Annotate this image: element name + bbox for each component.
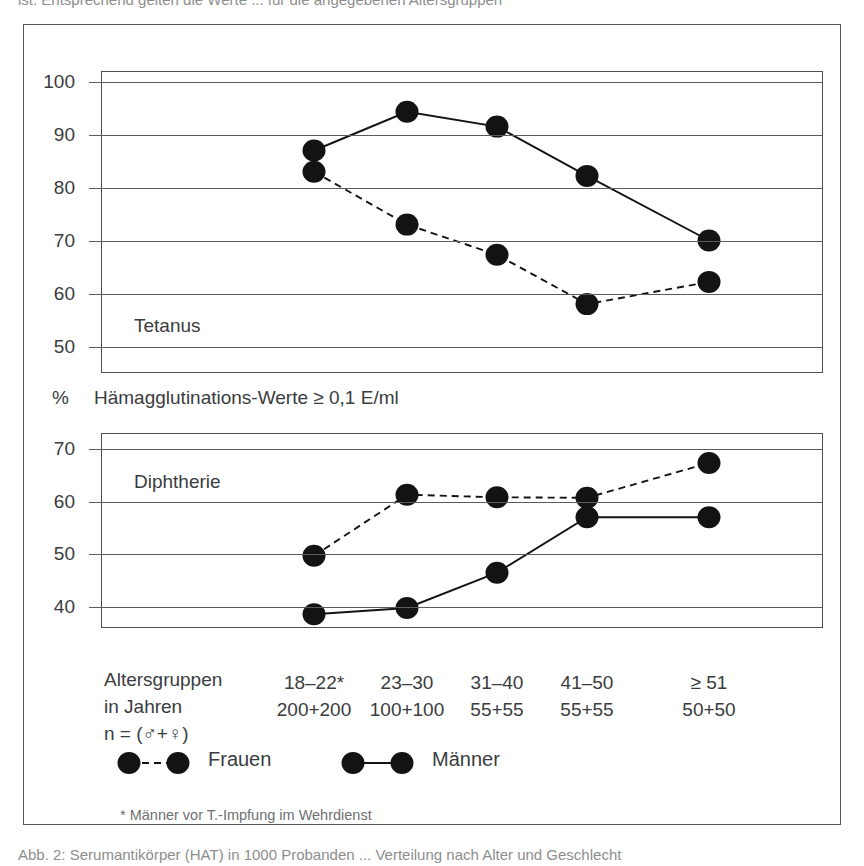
legend-marker-solid bbox=[340, 751, 418, 775]
x-axis-title-line3: n = (♂+♀) bbox=[104, 723, 188, 745]
y-axis-tick bbox=[89, 554, 101, 555]
series-line-frauen bbox=[314, 172, 709, 304]
panel-title-diphtherie: Diphtherie bbox=[134, 471, 221, 493]
chart-panel-tetanus bbox=[101, 71, 823, 373]
series-line-frauen bbox=[314, 463, 709, 556]
y-axis-tick bbox=[89, 294, 101, 295]
gridline bbox=[101, 554, 823, 555]
y-axis-tick bbox=[89, 188, 101, 189]
y-axis-tick-label: 50 bbox=[15, 544, 75, 563]
panel-title-tetanus: Tetanus bbox=[134, 315, 201, 337]
plot-series-tetanus bbox=[101, 71, 823, 373]
data-point[interactable] bbox=[698, 506, 721, 528]
data-point[interactable] bbox=[303, 140, 326, 162]
data-point[interactable] bbox=[486, 486, 509, 508]
y-axis-tick-label: 80 bbox=[15, 178, 75, 197]
legend-label-maenner: Männer bbox=[432, 748, 500, 771]
y-axis-tick bbox=[89, 449, 101, 450]
data-point[interactable] bbox=[486, 244, 509, 266]
gridline bbox=[101, 294, 823, 295]
gridline bbox=[101, 607, 823, 608]
gridline bbox=[101, 347, 823, 348]
x-axis-group-range: ≥ 51 bbox=[634, 669, 784, 696]
footnote: * Männer vor T.-Impfung im Wehrdienst bbox=[120, 807, 372, 823]
y-axis-tick bbox=[89, 241, 101, 242]
y-axis-tick-label: 70 bbox=[15, 439, 75, 458]
y-axis-tick-label: 90 bbox=[15, 125, 75, 144]
gridline bbox=[101, 188, 823, 189]
x-axis-title-line2: in Jahren bbox=[104, 696, 182, 718]
data-point[interactable] bbox=[576, 506, 599, 528]
plot-series-diphtherie bbox=[101, 433, 823, 628]
data-point[interactable] bbox=[576, 293, 599, 315]
y-axis-tick-label: 60 bbox=[15, 492, 75, 511]
data-point[interactable] bbox=[576, 165, 599, 187]
series-line-männer bbox=[314, 112, 709, 241]
gridline bbox=[101, 241, 823, 242]
gridline bbox=[101, 82, 823, 83]
gridline bbox=[101, 135, 823, 136]
y-axis-tick bbox=[89, 82, 101, 83]
unit-percent-symbol: % bbox=[52, 387, 69, 409]
y-axis-tick-label: 100 bbox=[15, 72, 75, 91]
y-axis-tick-label: 60 bbox=[15, 284, 75, 303]
unit-axis-caption: Hämagglutinations-Werte ≥ 0,1 E/ml bbox=[94, 387, 399, 409]
data-point[interactable] bbox=[303, 161, 326, 183]
y-axis-tick-label: 70 bbox=[15, 231, 75, 250]
y-axis-tick-label: 50 bbox=[15, 337, 75, 356]
x-axis-group-5: ≥ 5150+50 bbox=[634, 669, 784, 723]
series-line-männer bbox=[314, 517, 709, 614]
figure-caption-top-cropped: ist. Entsprechend gelten die Werte ... f… bbox=[0, 0, 864, 11]
x-axis-title-line1: Altersgruppen bbox=[104, 669, 222, 691]
figure-caption-bottom-cropped: Abb. 2: Serumantikörper (HAT) in 1000 Pr… bbox=[0, 846, 864, 866]
figure-frame: 5060708090100 Tetanus % Hämagglutination… bbox=[23, 24, 841, 825]
chart-panel-diphtherie bbox=[101, 433, 823, 628]
legend-marker-dashed bbox=[116, 751, 194, 775]
data-point[interactable] bbox=[576, 487, 599, 509]
data-point[interactable] bbox=[396, 214, 419, 236]
y-axis-tick bbox=[89, 502, 101, 503]
gridline bbox=[101, 502, 823, 503]
y-axis-tick bbox=[89, 135, 101, 136]
gridline bbox=[101, 449, 823, 450]
data-point[interactable] bbox=[486, 562, 509, 584]
y-axis-tick-label: 40 bbox=[15, 597, 75, 616]
legend-label-frauen: Frauen bbox=[208, 748, 271, 771]
data-point[interactable] bbox=[698, 452, 721, 474]
data-point[interactable] bbox=[698, 271, 721, 293]
data-point[interactable] bbox=[396, 597, 419, 619]
data-point[interactable] bbox=[396, 101, 419, 123]
x-axis-group-n: 50+50 bbox=[634, 696, 784, 723]
y-axis-tick bbox=[89, 347, 101, 348]
y-axis-tick bbox=[89, 607, 101, 608]
data-point[interactable] bbox=[303, 545, 326, 567]
